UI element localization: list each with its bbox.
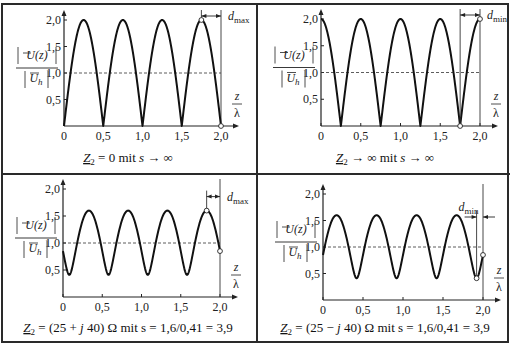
x-axis-arrow-icon — [495, 298, 501, 303]
plot-area: 00,51,01,52,00,51,01,52,0U(z)Uhzλdmin — [275, 184, 504, 317]
svg-text:z: z — [496, 263, 502, 277]
y-axis-arrow-icon — [321, 184, 326, 190]
x-tick-label: 1,5 — [436, 303, 451, 317]
x-axis-label: zλ — [494, 263, 504, 294]
distance-label: dmin — [459, 200, 480, 216]
x-tick-label: 0 — [320, 303, 326, 317]
y-tick-label: 1,5 — [305, 214, 320, 228]
y-tick-label: 2,0 — [305, 187, 320, 201]
x-tick-label: 1,0 — [396, 303, 411, 317]
x-tick-label: 2,0 — [476, 303, 491, 317]
chart-panel-capacitive-load: 00,51,01,52,00,51,01,52,0U(z)UhzλdminZ2 … — [0, 0, 511, 346]
y-tick-label: 0,5 — [305, 267, 320, 281]
x-tick-label: 0,5 — [356, 303, 371, 317]
svg-text:λ: λ — [496, 280, 502, 294]
svg-text:U(z): U(z) — [285, 222, 306, 236]
marker-point — [474, 276, 479, 281]
marker-point — [481, 253, 486, 258]
panel-caption: Z2 = (25 − j 40) Ω mit s = 1,6/0,41 = 3,… — [280, 320, 489, 337]
distance-annotation: dmin — [459, 200, 495, 281]
